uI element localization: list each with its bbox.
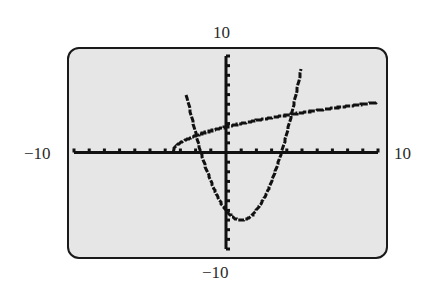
- y-tick: [226, 199, 230, 202]
- x-tick: [361, 149, 364, 153]
- y-tick: [226, 190, 230, 193]
- x-tick: [164, 149, 167, 153]
- y-tick: [226, 74, 230, 77]
- x-tick: [377, 149, 380, 153]
- y-tick: [226, 93, 230, 96]
- y-tick: [226, 141, 230, 144]
- x-tick: [194, 149, 197, 153]
- x-tick: [133, 149, 136, 153]
- y-tick: [226, 55, 230, 58]
- x-tick: [346, 149, 349, 153]
- y-tick: [226, 132, 230, 135]
- y-tick: [226, 103, 230, 106]
- x-tick: [209, 149, 212, 153]
- y-tick: [226, 219, 230, 222]
- x-tick: [73, 149, 76, 153]
- y-tick: [226, 248, 230, 251]
- x-tick: [118, 149, 121, 153]
- x-tick: [331, 149, 334, 153]
- y-tick: [226, 112, 230, 115]
- y-tick: [226, 228, 230, 231]
- graph-plot: [0, 0, 435, 288]
- y-tick: [226, 83, 230, 86]
- x-tick: [88, 149, 91, 153]
- x-tick: [240, 149, 243, 153]
- x-tick: [149, 149, 152, 153]
- y-tick: [226, 238, 230, 241]
- y-tick: [226, 161, 230, 164]
- x-tick: [270, 149, 273, 153]
- x-tick: [103, 149, 106, 153]
- x-tick: [255, 149, 258, 153]
- radical-curve: [173, 102, 378, 153]
- x-tick: [179, 149, 182, 153]
- curves: [173, 69, 378, 220]
- x-tick: [285, 149, 288, 153]
- y-tick: [226, 170, 230, 173]
- x-tick: [316, 149, 319, 153]
- axes: [73, 55, 380, 251]
- parabola-curve: [186, 69, 301, 220]
- y-tick: [226, 180, 230, 183]
- x-tick: [301, 149, 304, 153]
- y-tick: [226, 64, 230, 67]
